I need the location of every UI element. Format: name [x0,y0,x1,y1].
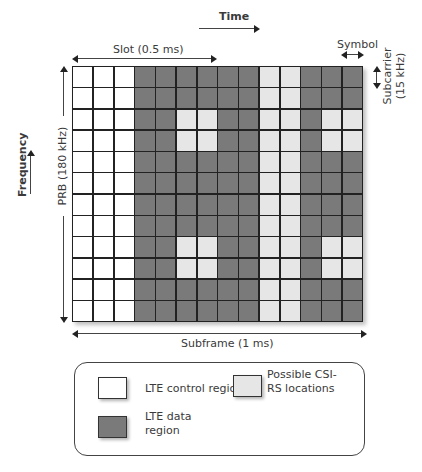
slot-arrow-right-icon [211,55,217,63]
grid-cell-control [94,195,113,215]
grid-cell-data [156,88,175,108]
grid-cell-csi [260,259,279,279]
legend: LTE control region Possible CSI- RS loca… [74,362,365,456]
grid-cell-control [94,280,113,300]
grid-cell-csi [322,259,341,279]
grid-cell-data [218,216,237,236]
grid-cell-data [322,67,341,87]
legend-label-control: LTE control region [145,382,243,396]
legend-label-csi-line2: RS locations [267,382,337,396]
grid-cell-data [218,67,237,87]
grid-cell-data [156,67,175,87]
grid-cell-control [115,173,134,193]
grid-cell-control [73,280,92,300]
grid-cell-data [322,152,341,172]
grid-cell-csi [322,237,341,257]
grid-cell-control [94,301,113,321]
grid-cell-data [218,237,237,257]
grid-cell-data [156,280,175,300]
slot-arrow-line [76,58,213,59]
grid-cell-data [218,131,237,151]
grid-cell-data [177,195,196,215]
subcarrier-label: Subcarrier (15 kHz) [381,46,409,106]
grid-cell-control [94,67,113,87]
grid-cell-data [218,110,237,130]
subcarrier-label-line1: Subcarrier [381,46,394,106]
grid-cell-data [301,195,320,215]
grid-cell-data [177,216,196,236]
grid-cell-data [239,216,258,236]
grid-cell-data [135,110,154,130]
grid-cell-csi [281,173,300,193]
grid-cell-data [177,173,196,193]
grid-cell-control [94,237,113,257]
grid-cell-data [239,131,258,151]
grid-cell-data [322,195,341,215]
grid-cell-control [115,259,134,279]
grid-cell-csi [260,110,279,130]
grid-cell-control [94,131,113,151]
grid-cell-csi [322,131,341,151]
grid-cell-data [135,216,154,236]
subcarrier-arrow-down-icon [373,83,381,89]
grid-cell-data [177,88,196,108]
grid-cell-csi [260,237,279,257]
grid-cell-data [239,259,258,279]
grid-cell-control [115,110,134,130]
grid-cell-data [343,88,362,108]
grid-cell-data [322,88,341,108]
grid-cell-data [156,259,175,279]
grid-cell-data [156,237,175,257]
grid-cell-data [301,173,320,193]
grid-cell-csi [322,110,341,130]
grid-cell-csi [281,259,300,279]
grid-cell-control [115,216,134,236]
grid-cell-data [239,237,258,257]
grid-cell-csi [281,280,300,300]
grid-cell-control [115,280,134,300]
grid-cell-data [322,173,341,193]
grid-cell-csi [281,301,300,321]
grid-cell-csi [281,110,300,130]
grid-cell-data [156,195,175,215]
grid-cell-data [156,173,175,193]
grid-cell-data [135,152,154,172]
grid-cell-data [301,237,320,257]
grid-cell-data [198,88,217,108]
grid-cell-control [115,237,134,257]
grid-cell-data [322,280,341,300]
grid-cell-csi [260,195,279,215]
grid-cell-data [218,88,237,108]
grid-cell-data [218,173,237,193]
prb-arrow-down-icon [60,317,68,323]
legend-label-csi-line1: Possible CSI- [267,368,337,382]
grid-cell-data [177,280,196,300]
grid-cell-data [301,131,320,151]
grid-cell-data [135,67,154,87]
legend-swatch-csi [233,375,262,397]
grid-cell-control [115,67,134,87]
grid-cell-data [135,195,154,215]
time-arrow-line [199,28,255,29]
grid-cell-csi [260,173,279,193]
grid-cell-data [343,195,362,215]
grid-cell-csi [343,259,362,279]
grid-cell-control [73,131,92,151]
grid-cell-data [343,173,362,193]
grid-cell-data [322,216,341,236]
grid-cell-data [177,152,196,172]
grid-cell-csi [281,131,300,151]
prb-arrow-up-icon [60,66,68,72]
grid-cell-csi [281,195,300,215]
grid-cell-data [301,152,320,172]
grid-cell-csi [177,237,196,257]
grid-cell-data [301,216,320,236]
grid-cell-data [156,301,175,321]
grid-cell-data [198,152,217,172]
grid-cell-data [239,301,258,321]
grid-cell-control [73,259,92,279]
grid-cell-csi [343,131,362,151]
grid-cell-csi [260,131,279,151]
grid-cell-data [218,259,237,279]
grid-cell-data [343,67,362,87]
